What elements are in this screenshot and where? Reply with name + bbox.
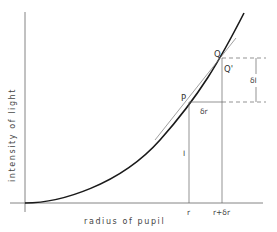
intensity-curve: [25, 13, 244, 203]
point-q-prime-label: Q': [224, 64, 233, 74]
tick-r-dr-label: r+δr: [213, 208, 231, 217]
delta-i-label: δI: [250, 76, 257, 85]
tick-r-label: r: [187, 208, 191, 217]
point-p-label: P: [181, 93, 186, 103]
tangent-line: [155, 38, 236, 140]
pupil-intensity-diagram: P Q Q' δr δI I r r+δr radius of pupil in…: [0, 0, 277, 232]
point-q-label: Q: [214, 49, 221, 59]
y-axis-label: intensity of light: [8, 88, 17, 182]
delta-r-label: δr: [200, 107, 209, 116]
x-axis-label: radius of pupil: [84, 217, 165, 226]
i-label: I: [183, 149, 185, 158]
